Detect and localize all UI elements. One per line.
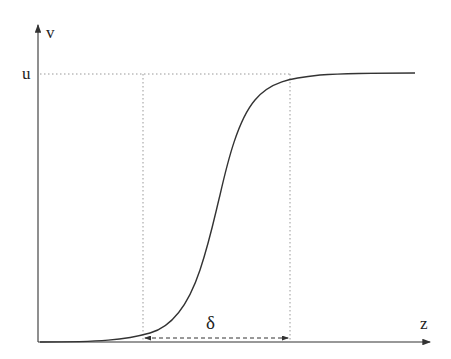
- diagram-canvas: v z u δ: [0, 0, 451, 359]
- sigmoid-curve: [40, 73, 415, 342]
- x-axis-label: z: [420, 314, 428, 333]
- y-axis-label: v: [46, 23, 55, 42]
- delta-width-label: δ: [206, 312, 215, 333]
- u-level-label: u: [22, 64, 31, 83]
